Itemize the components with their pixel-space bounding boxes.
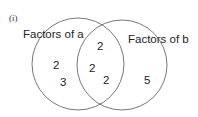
a-only-value: 3 xyxy=(60,77,66,89)
a-only-value: 2 xyxy=(53,60,59,72)
intersection-value: 2 xyxy=(103,75,109,87)
b-only-value: 5 xyxy=(144,75,150,87)
venn-circles xyxy=(0,0,198,117)
set-a-label: Factors of a xyxy=(23,29,84,41)
set-b-label: Factors of b xyxy=(128,34,189,46)
intersection-value: 2 xyxy=(89,63,95,75)
intersection-value: 2 xyxy=(97,41,103,53)
part-label: (i) xyxy=(9,14,18,23)
